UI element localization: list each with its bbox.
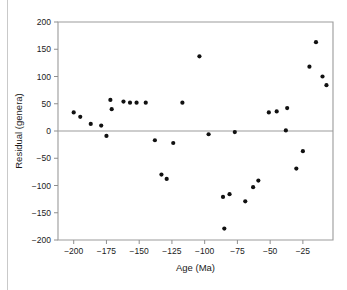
data-point [207,132,211,136]
data-point [99,123,103,127]
y-tick-label: 150 [37,44,51,54]
data-point [165,177,169,181]
data-point [314,40,318,44]
chart-figure: 200150100500−50−100−150−200−200−175−150−… [0,0,347,290]
data-point [256,178,260,182]
data-point [251,185,255,189]
data-point [294,167,298,171]
data-point [108,98,112,102]
data-point [121,99,125,103]
data-point [324,83,328,87]
y-axis-label: Residual (genera) [13,93,24,169]
y-tick-label: −100 [32,181,51,191]
y-tick-label: −150 [32,208,51,218]
data-point [233,130,237,134]
x-tick-label: −25 [296,246,311,256]
data-point [285,106,289,110]
data-point [284,128,288,132]
x-tick-label: −125 [162,246,181,256]
x-tick-label: −150 [130,246,149,256]
y-tick-label: 100 [37,72,51,82]
x-tick-label: −50 [263,246,278,256]
data-point [221,195,225,199]
data-point [171,141,175,145]
y-tick-label: 200 [37,17,51,27]
x-tick-label: −200 [64,246,83,256]
data-point [320,74,324,78]
data-point [128,101,132,105]
data-point [159,173,163,177]
scatter-plot-canvas: 200150100500−50−100−150−200−200−175−150−… [0,0,347,290]
x-tick-label: −175 [97,246,116,256]
data-point [89,122,93,126]
data-point [144,101,148,105]
data-point [110,107,114,111]
data-point [307,65,311,69]
data-point [275,109,279,113]
page-edge-rule [7,0,8,290]
data-point [197,54,201,58]
y-tick-label: 0 [46,126,51,136]
data-point [180,101,184,105]
data-point [78,115,82,119]
data-point [72,110,76,114]
x-axis-label: Age (Ma) [176,262,215,273]
data-point [153,138,157,142]
data-point [104,134,108,138]
data-point [243,199,247,203]
data-point [134,101,138,105]
x-tick-label: −100 [195,246,214,256]
y-tick-label: 50 [42,99,52,109]
data-point [227,192,231,196]
y-tick-label: −50 [37,153,52,163]
data-point [267,110,271,114]
x-tick-label: −75 [230,246,245,256]
y-tick-label: −200 [32,235,51,245]
data-point [222,226,226,230]
data-point [301,149,305,153]
